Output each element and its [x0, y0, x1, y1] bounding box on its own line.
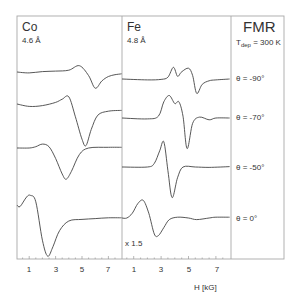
x-axis-ticks [23, 256, 223, 259]
tdep-value: = 300 K [251, 38, 281, 47]
fe-thickness-label: 4.8 Å [127, 36, 146, 45]
tdep-label: Tdep = 300 K [236, 38, 281, 48]
fe-panel-title: Fe [127, 20, 141, 34]
co-tick-3: 3 [54, 265, 58, 274]
co-tick-1: 1 [27, 265, 31, 274]
scale-factor-note: x 1.5 [125, 239, 142, 248]
co-curves [17, 66, 122, 257]
fmr-curve-fe-3 [122, 200, 230, 237]
co-tick-7: 7 [106, 265, 110, 274]
fmr-curve-co-0 [17, 66, 122, 89]
fe-tick-1: 1 [132, 265, 136, 274]
x-axis-label: H [kG] [194, 283, 217, 292]
fe-tick-3: 3 [159, 265, 163, 274]
fmr-title: FMR [243, 18, 276, 35]
tdep-subscript: dep [241, 42, 251, 48]
co-thickness-label: 4.6 Å [22, 36, 41, 45]
theta-label-0: θ = 0° [236, 214, 257, 223]
theta-label-m70: θ = -70° [236, 113, 264, 122]
co-panel-title: Co [22, 20, 37, 34]
co-tick-5: 5 [80, 265, 84, 274]
fmr-curve-fe-0 [122, 67, 230, 93]
fe-tick-5: 5 [187, 265, 191, 274]
fe-curves [122, 67, 230, 236]
theta-label-m90: θ = -90° [236, 74, 264, 83]
fmr-curve-co-3 [17, 195, 122, 256]
fe-tick-7: 7 [215, 265, 219, 274]
theta-label-m50: θ = -50° [236, 163, 264, 172]
fmr-curve-fe-1 [122, 95, 230, 148]
fmr-curve-fe-2 [122, 141, 230, 198]
fmr-curve-co-2 [17, 144, 122, 179]
fmr-curve-co-1 [17, 96, 122, 146]
